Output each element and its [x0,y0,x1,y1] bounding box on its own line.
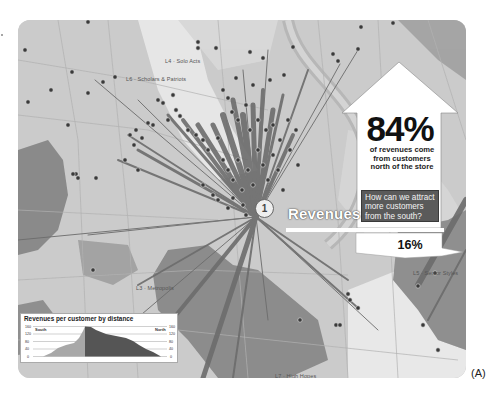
y-tick-120-right: 120 [169,332,175,336]
question-line-2: more customers [365,202,438,211]
store-marker[interactable]: 1 [255,199,274,218]
inset-chart-plot [21,314,179,364]
south-revenue-percent: 16% [380,238,440,252]
north-revenue-percent: 84% [362,110,438,148]
question-line-1: How can we attract [365,193,438,202]
north-revenue-description: of revenues come from customers north of… [364,146,440,172]
north-text-line-3: north of the store [364,163,440,172]
question-box: How can we attract more customers from t… [361,190,439,222]
north-axis-label: North [155,327,166,332]
y-tick-0-left: 0 [27,355,29,359]
y-tick-40-left: 40 [25,347,29,351]
figure-caption-label: (A) [471,367,486,379]
y-tick-80-right: 80 [169,340,173,344]
question-line-3: from the south? [365,212,438,221]
revenues-label: Revenues [288,205,360,222]
y-tick-160-left: 160 [25,325,31,329]
y-tick-160-right: 160 [169,325,175,329]
y-tick-0-right: 0 [170,355,172,359]
south-axis-label: South [35,327,46,332]
y-tick-80-left: 80 [25,340,29,344]
y-tick-40-right: 40 [169,347,173,351]
revenue-by-distance-chart: Revenues per customer by distance 160 12… [20,313,178,363]
y-tick-120-left: 120 [25,332,31,336]
